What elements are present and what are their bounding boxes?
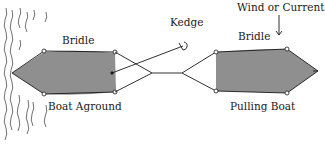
label-kedge: Kedge	[170, 17, 203, 28]
label-bridle-right: Bridle	[238, 31, 270, 42]
label-boat-aground: Boat Aground	[48, 101, 122, 112]
hull-pulling	[216, 49, 318, 93]
bridle-lines	[115, 52, 216, 92]
hull-aground	[12, 51, 116, 95]
pulling-boat	[214, 47, 318, 95]
anchor-icon	[179, 42, 187, 50]
label-wind-or-current: Wind or Current	[237, 2, 325, 13]
wind-arrow-icon	[276, 15, 282, 35]
label-pulling-boat: Pulling Boat	[230, 101, 295, 112]
boat-aground	[12, 49, 117, 96]
label-bridle-left: Bridle	[62, 35, 94, 46]
towing-diagram	[0, 0, 325, 151]
